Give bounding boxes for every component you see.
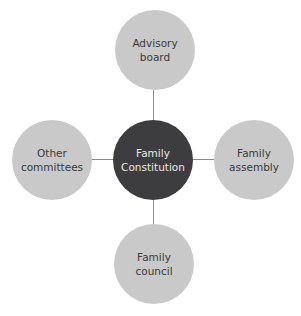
node-family-constitution: Family Constitution: [113, 120, 193, 200]
node-label: Advisory board: [132, 36, 177, 64]
center-label: Family Constitution: [121, 146, 185, 174]
node-other-committees: Other committees: [12, 120, 92, 200]
connector-bottom: [153, 200, 154, 225]
connector-right: [192, 159, 216, 160]
node-label: Family council: [135, 250, 172, 278]
node-family-assembly: Family assembly: [214, 120, 294, 200]
node-label: Family assembly: [229, 146, 279, 174]
node-advisory-board: Advisory board: [115, 10, 195, 90]
node-family-council: Family council: [114, 224, 194, 304]
node-label: Other committees: [21, 146, 83, 174]
connector-left: [91, 159, 115, 160]
connector-top: [153, 90, 154, 122]
